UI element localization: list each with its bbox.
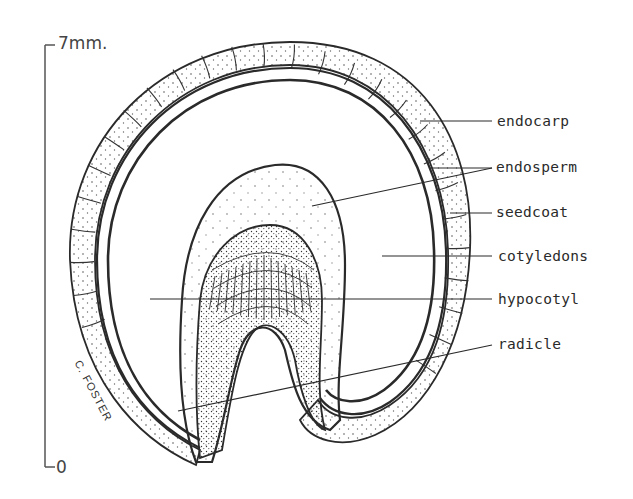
label-endosperm: endosperm — [496, 160, 577, 175]
scale-top-label: 7mm. — [58, 35, 107, 52]
label-hypocotyl: hypocotyl — [498, 292, 579, 307]
label-cotyledons: cotyledons — [498, 249, 588, 264]
label-endocarp: endocarp — [497, 114, 569, 129]
scale-bar — [45, 45, 55, 467]
label-radicle: radicle — [498, 337, 561, 352]
seed-diagram: 7mm. 0 endocarp endosperm seedcoat cotyl… — [0, 0, 633, 499]
scale-bottom-label: 0 — [56, 459, 67, 476]
label-seedcoat: seedcoat — [496, 205, 568, 220]
